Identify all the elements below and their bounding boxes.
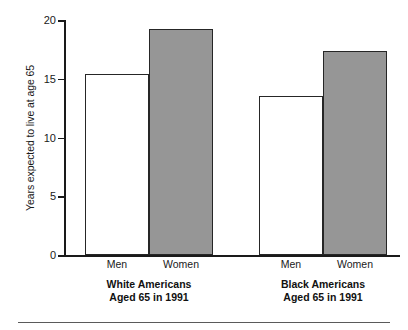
bar-label-white-women: Women bbox=[149, 258, 213, 270]
y-tick-5 bbox=[58, 196, 64, 198]
group-label-black-americans: Black Americans Aged 65 in 1991 bbox=[259, 278, 387, 304]
group-label-white-americans: White Americans Aged 65 in 1991 bbox=[85, 278, 213, 304]
bar-black-men bbox=[259, 96, 323, 255]
bar-chart-figure: Years expected to live at age 65 20 15 1… bbox=[0, 0, 408, 330]
y-tick-label-10: 10 bbox=[26, 133, 56, 144]
footer-divider bbox=[18, 322, 390, 323]
bar-label-black-women: Women bbox=[323, 258, 387, 270]
group-label-black-line1: Black Americans bbox=[259, 278, 387, 291]
bar-white-men bbox=[85, 74, 149, 255]
y-tick-label-15: 15 bbox=[26, 74, 56, 85]
bar-white-women bbox=[149, 29, 213, 255]
bar-label-black-men: Men bbox=[259, 258, 323, 270]
plot-area: 20 15 10 5 0 bbox=[64, 20, 400, 255]
y-tick-0 bbox=[58, 255, 64, 257]
y-axis-line bbox=[64, 20, 66, 255]
y-tick-15 bbox=[58, 79, 64, 81]
bar-black-women bbox=[323, 51, 387, 255]
y-tick-label-20: 20 bbox=[26, 15, 56, 26]
y-tick-20 bbox=[58, 20, 64, 22]
group-label-black-line2: Aged 65 in 1991 bbox=[259, 291, 387, 304]
group-label-white-line1: White Americans bbox=[85, 278, 213, 291]
y-tick-label-0: 0 bbox=[26, 250, 56, 261]
bar-label-white-men: Men bbox=[85, 258, 149, 270]
y-tick-10 bbox=[58, 138, 64, 140]
group-label-white-line2: Aged 65 in 1991 bbox=[85, 291, 213, 304]
x-axis-line bbox=[64, 255, 400, 257]
y-tick-label-5: 5 bbox=[26, 191, 56, 202]
